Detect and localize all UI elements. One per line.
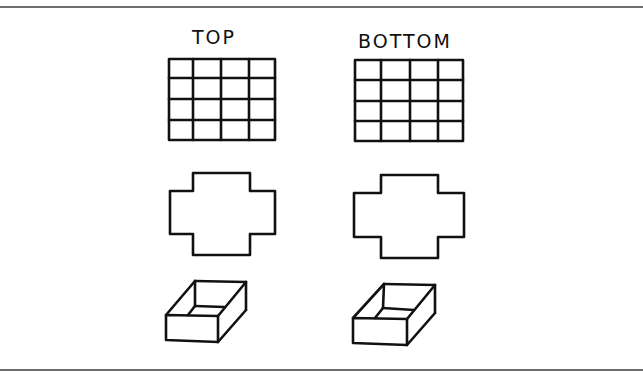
bottom-grid xyxy=(355,60,463,141)
top-open-box xyxy=(166,281,246,342)
diagram-canvas xyxy=(0,0,643,386)
top-cross-outline xyxy=(170,173,275,255)
bottom-cross-outline xyxy=(354,175,464,258)
bottom-open-box xyxy=(353,284,435,345)
top-grid xyxy=(169,59,275,140)
bottom-divider xyxy=(0,369,643,371)
